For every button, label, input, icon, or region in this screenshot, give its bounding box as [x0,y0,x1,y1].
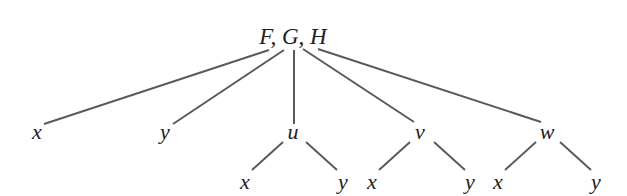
u-child-y: y [336,169,348,194]
edge-root-to-n5 [318,49,541,122]
tree-nodes: F, G, H x y u v w x y x y x y [31,24,601,194]
edge-root-to-n4 [303,49,414,122]
w-child-x: x [492,169,503,194]
edge-root-to-n2 [173,50,284,124]
edge-n4-to-n4a [379,142,410,170]
level1-node-v: v [415,119,425,144]
edge-n3-to-n3b [306,142,337,170]
tree-edges [44,49,591,170]
edge-n3-to-n3a [252,142,283,170]
w-child-y: y [589,169,601,194]
edge-n4-to-n4b [434,142,465,170]
v-child-x: x [366,169,377,194]
edge-root-to-n1 [44,50,269,124]
level1-node-w: w [540,119,555,144]
edge-n5-to-n5a [505,142,536,170]
root-node-label: F, G, H [258,24,328,49]
level1-node-y: y [158,119,170,144]
level1-node-x: x [31,119,42,144]
tree-diagram: F, G, H x y u v w x y x y x y [0,0,627,196]
u-child-x: x [239,169,250,194]
v-child-y: y [463,169,475,194]
edge-n5-to-n5b [560,142,591,170]
level1-node-u: u [288,119,299,144]
